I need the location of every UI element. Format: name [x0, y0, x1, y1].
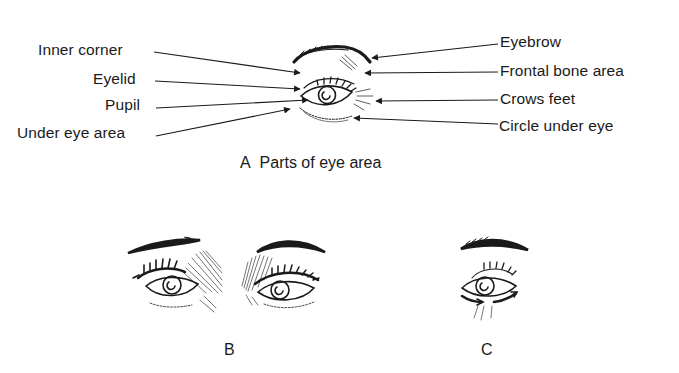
arrow-inner-corner	[154, 52, 300, 73]
arrow-pupil	[156, 100, 308, 108]
eye-drawing-A	[294, 46, 373, 122]
diagram-artwork	[0, 0, 679, 373]
arrow-under-eye-area	[156, 109, 290, 136]
arrow-eyebrow	[372, 44, 498, 58]
arrow-crows-feet	[376, 100, 498, 101]
leader-lines	[154, 44, 498, 136]
arrow-circle-under-eye	[354, 118, 498, 124]
arrow-frontal-bone-area	[365, 72, 498, 73]
eye-drawing-B-right	[242, 241, 325, 307]
arrow-eyelid	[155, 81, 300, 89]
eye-drawing-C	[461, 237, 528, 320]
eye-drawing-B-left	[128, 237, 222, 312]
